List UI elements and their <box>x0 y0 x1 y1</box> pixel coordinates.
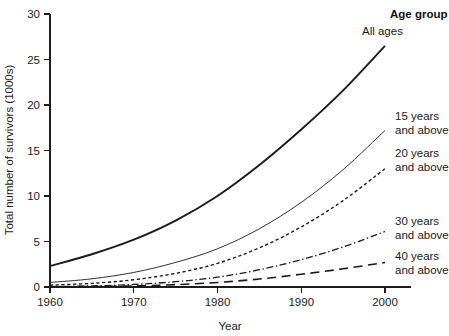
series-lines <box>50 46 385 287</box>
x-tick-label: 1970 <box>121 296 147 308</box>
x-tick-label: 1960 <box>37 296 63 308</box>
series-label-line2: and above <box>395 264 449 276</box>
series-label-0: All ages <box>362 25 403 37</box>
series-label-1: 15 yearsand above <box>395 110 449 136</box>
series-label-line2: and above <box>395 161 449 173</box>
y-axis-title: Total number of survivors (1000s) <box>3 65 15 236</box>
y-tick-label: 0 <box>34 281 40 293</box>
series-labels: All ages15 yearsand above20 yearsand abo… <box>362 25 449 276</box>
y-tick-label: 30 <box>27 8 40 20</box>
series-label-line1: 20 years <box>395 147 439 159</box>
legend-title: Age group <box>390 8 448 20</box>
x-axis-ticks: 19601970198019902000 <box>37 287 398 308</box>
series-line-3 <box>50 231 385 286</box>
x-tick-label: 1990 <box>288 296 314 308</box>
series-label-2: 20 yearsand above <box>395 147 449 173</box>
chart-container: 051015202530 19601970198019902000 Year T… <box>0 0 449 336</box>
series-label-line1: All ages <box>362 25 403 37</box>
y-tick-label: 10 <box>27 190 40 202</box>
series-label-line1: 15 years <box>395 110 439 122</box>
series-label-line1: 40 years <box>395 250 439 262</box>
series-label-4: 40 yearsand above <box>395 250 449 276</box>
series-label-line2: and above <box>395 229 449 241</box>
series-line-1 <box>50 130 385 282</box>
series-line-4 <box>50 262 385 286</box>
series-label-line1: 30 years <box>395 215 439 227</box>
x-axis-title: Year <box>218 320 241 332</box>
y-tick-label: 20 <box>27 99 40 111</box>
survivors-line-chart: 051015202530 19601970198019902000 Year T… <box>0 0 449 336</box>
x-tick-label: 2000 <box>372 296 398 308</box>
x-tick-label: 1980 <box>205 296 231 308</box>
y-tick-label: 5 <box>34 236 40 248</box>
series-line-2 <box>50 169 385 285</box>
series-label-3: 30 yearsand above <box>395 215 449 241</box>
y-axis-ticks: 051015202530 <box>27 8 50 293</box>
series-line-0 <box>50 46 385 266</box>
series-label-line2: and above <box>395 124 449 136</box>
y-tick-label: 25 <box>27 54 40 66</box>
y-tick-label: 15 <box>27 145 40 157</box>
